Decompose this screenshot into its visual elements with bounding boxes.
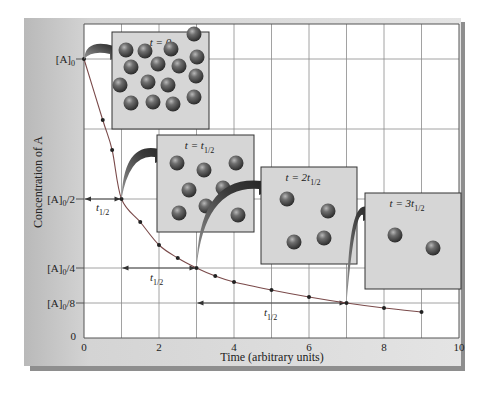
molecule-icon — [138, 44, 153, 59]
molecule-icon — [187, 27, 202, 42]
molecule-icon — [119, 43, 134, 58]
x-tick-label: 0 — [81, 341, 87, 353]
data-point — [382, 306, 386, 310]
molecule-icon — [124, 60, 139, 75]
molecule-icon — [229, 156, 244, 171]
y-tick-0: 0 — [71, 330, 77, 342]
molecule-icon — [187, 90, 202, 105]
data-point — [420, 310, 424, 314]
molecule-icon — [280, 192, 295, 207]
molecule-icon — [317, 231, 332, 246]
data-point — [232, 280, 236, 284]
data-point — [101, 118, 105, 122]
data-point — [270, 288, 274, 292]
molecule-icon — [124, 96, 139, 111]
molecule-icon — [182, 183, 197, 198]
molecule-icon — [170, 156, 185, 171]
molecule-icon — [166, 97, 181, 112]
x-tick-label: 2 — [156, 341, 162, 353]
data-point — [138, 220, 142, 224]
molecule-icon — [172, 206, 187, 221]
molecule-icon — [189, 69, 204, 84]
x-tick-label: 8 — [381, 341, 387, 353]
data-point — [307, 295, 311, 299]
molecule-icon — [197, 163, 212, 178]
molecule-icon — [426, 241, 441, 256]
x-axis-label: Time (arbitrary units) — [220, 350, 324, 364]
molecule-icon — [146, 95, 161, 110]
molecule-icon — [190, 50, 205, 65]
molecule-icon — [172, 59, 187, 74]
y-axis-label: Concentration of A — [31, 136, 45, 228]
molecule-icon — [287, 235, 302, 250]
molecule-icon — [141, 75, 156, 90]
x-tick-label: 10 — [454, 341, 466, 353]
data-point — [176, 256, 180, 260]
molecule-icon — [231, 208, 246, 223]
molecule-icon — [164, 42, 179, 57]
data-point — [213, 274, 217, 278]
molecule-icon — [321, 204, 336, 219]
data-point — [157, 243, 161, 247]
molecule-icon — [151, 57, 166, 72]
molecule-icon — [113, 78, 128, 93]
data-point — [110, 148, 114, 152]
half-life-chart: 0[A]0/8[A]0/4[A]0/2[A]0 0246810 Time (ar… — [0, 0, 490, 394]
molecule-icon — [161, 78, 176, 93]
molecule-icon — [388, 228, 403, 243]
